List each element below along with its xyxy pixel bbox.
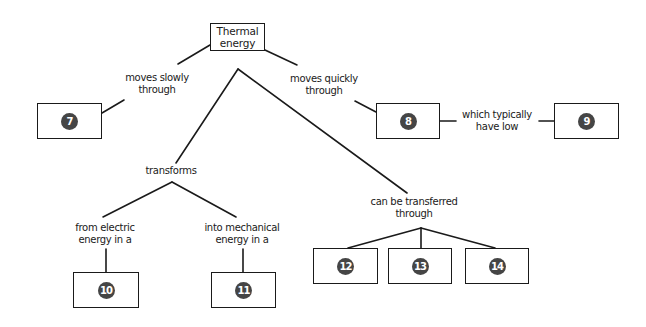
label-which-typically: which typically have low — [462, 109, 532, 133]
number-badge-13: 13 — [412, 258, 429, 275]
root-line1: Thermal — [217, 25, 259, 37]
label-line: energy in a — [75, 234, 134, 246]
concept-map: Thermal energy moves slowly through move… — [0, 0, 646, 327]
label-line: energy in a — [204, 234, 279, 246]
blank-box-10[interactable]: 10 — [73, 272, 139, 308]
number-badge-9: 9 — [578, 113, 595, 130]
blank-box-13[interactable]: 13 — [388, 248, 452, 284]
label-line: have low — [462, 121, 532, 133]
label-line: into mechanical — [204, 222, 279, 234]
blank-box-14[interactable]: 14 — [465, 248, 529, 284]
label-from-electric: from electric energy in a — [75, 222, 134, 246]
number-badge-10: 10 — [98, 282, 115, 299]
label-moves-slowly: moves slowly through — [125, 72, 189, 96]
number-badge-8: 8 — [400, 113, 417, 130]
blank-box-12[interactable]: 12 — [313, 248, 378, 284]
number-badge-11: 11 — [235, 282, 252, 299]
label-moves-quickly: moves quickly through — [290, 73, 358, 97]
blank-box-8[interactable]: 8 — [376, 103, 440, 139]
label-can-be-transferred: can be transferred through — [370, 196, 457, 220]
label-line: through — [290, 85, 358, 97]
blank-box-11[interactable]: 11 — [211, 272, 276, 308]
blank-box-9[interactable]: 9 — [554, 103, 619, 139]
label-line: moves slowly — [125, 72, 189, 84]
label-line: moves quickly — [290, 73, 358, 85]
label-line: through — [125, 84, 189, 96]
number-badge-12: 12 — [337, 258, 354, 275]
label-line: can be transferred — [370, 196, 457, 208]
label-transforms: transforms — [145, 165, 196, 177]
number-badge-7: 7 — [61, 113, 78, 130]
label-line: through — [370, 208, 457, 220]
label-line: from electric — [75, 222, 134, 234]
label-line: which typically — [462, 109, 532, 121]
number-badge-14: 14 — [489, 258, 506, 275]
root-line2: energy — [217, 37, 259, 49]
label-line: transforms — [145, 165, 196, 177]
label-into-mechanical: into mechanical energy in a — [204, 222, 279, 246]
blank-box-7[interactable]: 7 — [37, 103, 102, 139]
thermal-energy-box: Thermal energy — [210, 23, 265, 51]
